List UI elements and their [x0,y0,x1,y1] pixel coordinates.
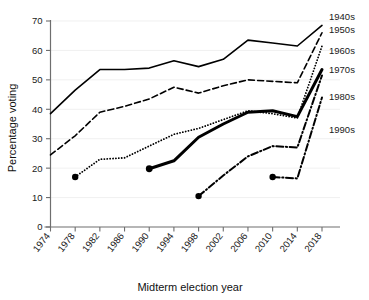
series-start-marker-1980s [195,193,201,199]
y-tick-label-50: 50 [32,74,43,85]
series-start-marker-1960s [72,174,78,180]
x-axis-title: Midterm election year [137,281,242,293]
y-axis-title: Percentage voting [6,84,18,173]
legend-label-1940s: 1940s [329,11,355,22]
legend-label-1990s: 1990s [329,124,355,135]
y-tick-label-30: 30 [32,133,43,144]
y-tick-label-20: 20 [32,163,43,174]
chart-container: 010203040506070 197419781982198619901994… [0,0,369,300]
y-tick-label-40: 40 [32,104,43,115]
y-tick-label-70: 70 [32,15,43,26]
series-start-marker-1990s [269,174,275,180]
legend-label-1970s: 1970s [329,64,355,75]
legend-label-1980s: 1980s [329,91,355,102]
y-tick-label-0: 0 [37,221,42,232]
y-tick-label-60: 60 [32,45,43,56]
series-start-marker-1970s [146,165,153,172]
legend-label-1960s: 1960s [329,45,355,56]
y-tick-label-10: 10 [32,192,43,203]
midterm-turnout-line-chart: 010203040506070 197419781982198619901994… [0,0,369,300]
legend-label-1950s: 1950s [329,24,355,35]
